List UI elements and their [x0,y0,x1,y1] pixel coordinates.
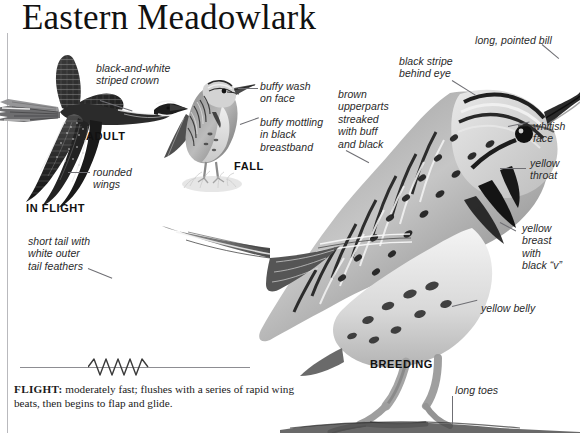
label-black-stripe: black stripe behind eye [399,55,453,80]
stage-label-breeding: BREEDING [370,358,433,370]
flight-heading: FLIGHT: [14,383,63,395]
label-long-toes: long toes [455,384,498,396]
page-title: Eastern Meadowlark [22,0,316,38]
stage-label-in-flight: IN FLIGHT [26,202,85,214]
leader-long-toes [452,396,453,424]
leader-rounded-wings [68,172,90,173]
stage-label-fall: FALL [234,160,264,172]
field-guide-page: Eastern Meadowlark [0,0,580,433]
label-long-bill: long, pointed bill [475,34,552,46]
label-whitish-face: whitish face [533,120,565,145]
label-brown-upperparts: brown upperparts streaked with buff and … [338,88,389,150]
flight-pattern-zigzag [88,356,164,378]
leader-buffy-wash [238,88,258,89]
label-rounded-wings: rounded wings [93,166,132,191]
label-striped-crown: black-and-white striped crown [96,62,170,87]
label-yellow-throat: yellow throat [530,157,559,182]
label-buffy-mottling: buffy mottling in black breastband [260,116,323,153]
label-yellow-belly: yellow belly [481,302,535,314]
label-yellow-breast: yellow breast with black “v” [522,222,562,272]
leader-short-tail [88,268,112,279]
stage-label-adult: ADULT [86,130,125,142]
label-buffy-wash: buffy wash on face [260,80,311,105]
label-short-tail: short tail with white outer tail feather… [28,235,90,272]
leader-yellow-throat [500,168,526,169]
flight-description: FLIGHT: moderately fast; flushes with a … [14,382,314,410]
illustration-flight-tail [0,100,60,130]
